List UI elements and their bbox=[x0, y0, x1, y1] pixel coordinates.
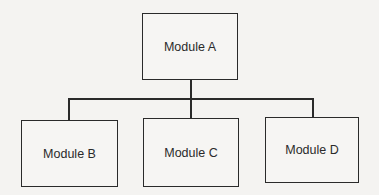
connector-to-module-b bbox=[68, 98, 70, 120]
connector-to-module-d bbox=[312, 98, 314, 117]
module-d-box: Module D bbox=[265, 117, 359, 183]
module-a-label: Module A bbox=[164, 40, 216, 54]
module-c-box: Module C bbox=[143, 118, 239, 187]
connector-to-module-c bbox=[190, 98, 192, 118]
module-a-box: Module A bbox=[142, 13, 238, 80]
module-b-label: Module B bbox=[43, 147, 96, 161]
module-b-box: Module B bbox=[21, 120, 118, 187]
module-c-label: Module C bbox=[164, 146, 218, 160]
module-d-label: Module D bbox=[285, 143, 339, 157]
connector-root-stem bbox=[190, 79, 192, 99]
